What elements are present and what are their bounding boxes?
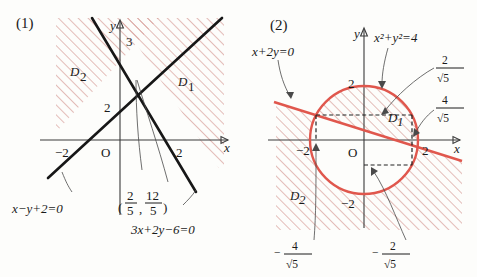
coordinate-close-paren: ) (163, 200, 167, 215)
figure-2-number: (2) (270, 17, 288, 34)
figure-1-d1-letter: D (177, 74, 188, 89)
figure-1-leader-to-line1 (62, 172, 72, 192)
figure-2-frac-bottom-left: − 4 √5 (274, 240, 312, 270)
figure-1-y-tick-2: 2 (104, 100, 111, 115)
figure-1-equation-line1: x−y+2=0 (11, 201, 63, 216)
figure-2-equation-circle: x²+y²=4 (373, 30, 418, 45)
coordinate-x-denominator: 5 (127, 203, 134, 218)
figure-1-y-tick-3: 3 (126, 34, 133, 49)
frac-rt-denominator: √5 (437, 72, 449, 84)
figure-2-frac-bottom-right: − 2 √5 (372, 240, 410, 270)
figure-2: (2) x y −2 O 2 2 −2 D 1 D 2 x+2y=0 x²+y²… (238, 0, 477, 277)
region-d2 (56, 0, 224, 18)
figure-2-frac-right-bottom: 4 √5 (436, 94, 464, 124)
figure-1-x-tick-2: 2 (176, 145, 183, 160)
region-d2-hatch (56, 0, 224, 18)
coordinate-y-denominator: 5 (150, 203, 157, 218)
figure-2-d1-subscript: 1 (397, 114, 404, 129)
coordinate-y-numerator: 12 (146, 188, 159, 203)
figure-2-y-axis-label: y (352, 26, 360, 41)
figure-1-canvas: (1) x y −2 O 2 3 2 D 2 D 1 x−y+2=0 3x+2y… (0, 0, 238, 277)
leader-to-line-equation (278, 60, 290, 96)
frac-br-sign: − (372, 246, 379, 258)
figure-1-origin-label: O (101, 145, 110, 160)
figure-1-x-tick-minus2: −2 (55, 145, 69, 160)
figure-1-d2-subscript: 2 (80, 69, 87, 84)
coordinate-open-paren: ( (118, 200, 122, 215)
frac-rt-numerator: 2 (442, 54, 448, 66)
figure-2-origin-label: O (348, 145, 357, 160)
frac-bl-sign: − (274, 246, 281, 258)
figure-2-y-tick-minus2: −2 (341, 196, 355, 211)
leader-to-frac-right-bottom (416, 110, 434, 132)
leader-arrow-line-icon (286, 92, 294, 99)
figure-2-x-tick-minus2: −2 (296, 143, 310, 158)
frac-br-numerator: 2 (390, 240, 396, 252)
frac-rb-numerator: 4 (442, 94, 448, 106)
figure-1-d1-subscript: 1 (188, 79, 195, 94)
leader-to-circle-equation (382, 48, 388, 84)
figure-1-x-axis-label: x (223, 140, 230, 155)
figure-1-d2-letter: D (69, 64, 80, 79)
coordinate-x-numerator: 2 (127, 188, 134, 203)
frac-bl-numerator: 4 (292, 240, 298, 252)
frac-bl-denominator: √5 (286, 258, 298, 270)
figure-2-d2-subscript: 2 (299, 192, 306, 207)
figure-1-number: (1) (16, 15, 34, 32)
figure-2-canvas: (2) x y −2 O 2 2 −2 D 1 D 2 x+2y=0 x²+y²… (238, 0, 477, 277)
frac-br-denominator: √5 (384, 258, 396, 270)
figure-2-x-tick-2: 2 (422, 143, 429, 158)
figure-1-leader-to-line2 (183, 190, 196, 205)
figure-1-y-axis-label: y (108, 18, 116, 33)
frac-rb-denominator: √5 (437, 112, 449, 124)
figure-2-x-axis-label: x (453, 141, 460, 156)
figure-2-equation-line: x+2y=0 (251, 44, 295, 59)
figure-2-frac-right-top: 2 √5 (436, 54, 464, 84)
figure-1: (1) x y −2 O 2 3 2 D 2 D 1 x−y+2=0 3x+2y… (0, 0, 238, 277)
figure-1-equation-line2: 3x+2y−6=0 (130, 222, 195, 237)
figure-2-y-tick-2: 2 (348, 76, 355, 91)
figure-1-intersection-coordinate: ( 2 5 , 12 5 ) (118, 188, 167, 218)
coordinate-comma: , (139, 201, 142, 216)
